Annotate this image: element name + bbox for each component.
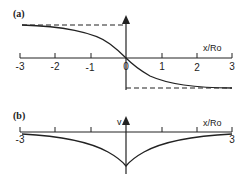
arrow-up-icon xyxy=(122,116,130,125)
tick-label: -1 xyxy=(86,62,95,73)
panel-a-label: (a) xyxy=(13,8,25,20)
x-axis-label-a: x/Ro xyxy=(203,43,222,53)
tick-label: 2 xyxy=(194,62,200,73)
tick-label: -3 xyxy=(16,134,25,145)
tick-label: -3 xyxy=(16,61,25,72)
curve-a xyxy=(22,25,232,88)
panel-b-label: (b) xyxy=(13,110,25,122)
tick-label: -2 xyxy=(51,61,60,72)
figure: (a) -3 -2 -1 0 1 2 3 x/Ro (b) xyxy=(0,0,244,180)
curve-b xyxy=(22,134,232,166)
panel-a: (a) -3 -2 -1 0 1 2 3 x/Ro xyxy=(13,8,235,90)
panel-b: (b) -3 3 x/Ro v xyxy=(13,110,235,174)
tick-label: 1 xyxy=(159,61,165,72)
tick-label: 3 xyxy=(229,134,235,145)
arrow-up-icon xyxy=(122,15,130,24)
y-axis-label-b: v xyxy=(117,117,122,127)
tick-label: 3 xyxy=(229,61,235,72)
x-axis-label-b: x/Ro xyxy=(203,118,222,128)
